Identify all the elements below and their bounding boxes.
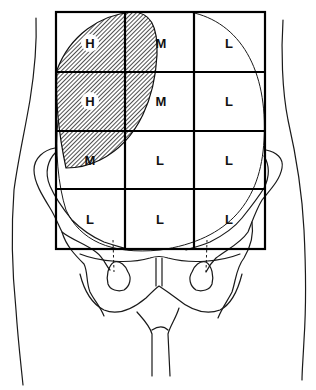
left-obturator-foramen (107, 262, 130, 291)
pelvic-outlet-left (137, 312, 152, 376)
right-hip-lower (218, 222, 253, 318)
hatched-region (57, 12, 158, 168)
right-femoral-dash (206, 240, 207, 272)
torso-right-outline (282, 20, 305, 380)
cell-label-r3c0: L (86, 212, 94, 227)
right-obturator-foramen (190, 262, 213, 291)
cell-label-r1c2: L (225, 94, 233, 109)
pelvic-outlet-bridge (152, 327, 168, 330)
cell-label-r2c2: L (225, 153, 233, 168)
right-iliac-inner (186, 156, 269, 250)
cell-label-r0c1: M (156, 36, 167, 51)
abdominal-grid-diagram: H M L H M L M L L L L L (0, 0, 316, 390)
pelvic-lower-arch (80, 274, 242, 312)
cell-label-r2c0: M (85, 153, 96, 168)
diagram-canvas: H M L H M L M L L L L L (0, 0, 316, 390)
cell-label-r1c0: H (85, 94, 94, 109)
cell-label-r3c1: L (156, 212, 164, 227)
cell-label-r2c1: L (156, 153, 164, 168)
right-iliac-crest (206, 150, 282, 272)
cell-label-r0c0: H (85, 36, 94, 51)
pelvic-outlet-right (168, 308, 179, 376)
cell-label-r3c2: L (225, 212, 233, 227)
torso-left-outline (12, 18, 36, 385)
cell-label-r0c2: L (225, 36, 233, 51)
cell-label-r1c1: M (156, 94, 167, 109)
